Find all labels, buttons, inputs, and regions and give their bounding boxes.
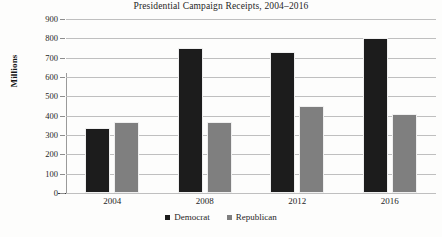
x-axis-tick-label: 2004 bbox=[82, 196, 142, 206]
x-axis-tick-label: 2008 bbox=[175, 196, 235, 206]
y-axis-tick-label: 800 bbox=[22, 34, 58, 43]
y-axis-tick-mark bbox=[60, 135, 65, 136]
bar-republican-2008 bbox=[207, 122, 232, 193]
plot-area bbox=[66, 19, 436, 193]
y-axis-tick-mark bbox=[60, 174, 65, 175]
chart-title: Presidential Campaign Receipts, 2004–201… bbox=[0, 1, 442, 11]
y-axis-tick-label: 500 bbox=[22, 92, 58, 101]
bar-republican-2012 bbox=[299, 106, 324, 193]
legend-item-republican[interactable]: Republican bbox=[227, 212, 277, 222]
bar-republican-2016 bbox=[392, 114, 417, 193]
y-axis-tick-mark bbox=[60, 38, 65, 39]
legend-swatch-icon bbox=[227, 215, 232, 220]
y-axis-tick-mark bbox=[60, 58, 65, 59]
legend-label: Democrat bbox=[174, 212, 209, 222]
y-axis-tick-mark bbox=[60, 154, 65, 155]
bar-democrat-2016 bbox=[363, 38, 388, 193]
bar-democrat-2004 bbox=[85, 128, 110, 193]
gridline bbox=[66, 193, 436, 194]
bar-chart: Presidential Campaign Receipts, 2004–201… bbox=[0, 0, 442, 237]
y-axis-tick-label: 600 bbox=[22, 73, 58, 82]
y-axis-tick-mark bbox=[60, 193, 65, 194]
y-axis-tick-label: 400 bbox=[22, 112, 58, 121]
y-axis-label: Millions bbox=[9, 36, 19, 106]
y-axis-tick-label: 200 bbox=[22, 150, 58, 159]
y-axis-tick-mark bbox=[60, 96, 65, 97]
legend-swatch-icon bbox=[165, 215, 170, 220]
y-axis-tick-label: 900 bbox=[22, 15, 58, 24]
x-axis-tick-label: 2012 bbox=[267, 196, 327, 206]
y-axis-tick-mark bbox=[60, 116, 65, 117]
y-axis-tick-mark bbox=[60, 19, 65, 20]
chart-legend: DemocratRepublican bbox=[0, 212, 442, 222]
y-axis-tick-label: 100 bbox=[22, 170, 58, 179]
bar-democrat-2012 bbox=[270, 52, 295, 193]
y-axis-tick-label: 0 bbox=[22, 189, 58, 198]
x-axis-tick-label: 2016 bbox=[360, 196, 420, 206]
legend-item-democrat[interactable]: Democrat bbox=[165, 212, 209, 222]
y-axis-tick-label: 300 bbox=[22, 131, 58, 140]
y-axis-tick-mark bbox=[60, 77, 65, 78]
bar-republican-2004 bbox=[114, 122, 139, 193]
bar-democrat-2008 bbox=[178, 48, 203, 193]
legend-label: Republican bbox=[236, 212, 277, 222]
gridline bbox=[66, 19, 436, 20]
y-axis-tick-label: 700 bbox=[22, 54, 58, 63]
